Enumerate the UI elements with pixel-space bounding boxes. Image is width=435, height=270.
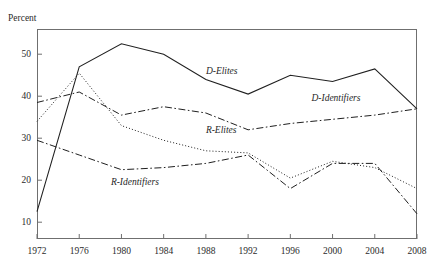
y-tick-label: 10	[9, 217, 31, 227]
x-tick-label: 1992	[228, 246, 268, 256]
x-tick-label: 2004	[355, 246, 395, 256]
series-annotation-r-elites: R-Elites	[206, 125, 237, 135]
cut-off-header-text	[8, 0, 42, 6]
y-tick-label: 30	[9, 133, 31, 143]
x-tick-label: 1984	[144, 246, 184, 256]
figure-root: Percent 1020304050 197219761980198419881…	[0, 0, 435, 270]
y-tick-label: 20	[9, 175, 31, 185]
x-tick-label: 1976	[59, 246, 99, 256]
series-line-r-identifiers	[37, 140, 417, 214]
series-annotation-d-identifiers: D-Identifiers	[311, 93, 360, 103]
x-tick-label: 1988	[186, 246, 226, 256]
y-tick-label: 50	[9, 49, 31, 59]
y-tick-label: 40	[9, 91, 31, 101]
x-tick-label: 1972	[17, 246, 57, 256]
series-annotation-d-elites: D-Elites	[206, 66, 238, 76]
x-tick-label: 1980	[101, 246, 141, 256]
x-tick-label: 1996	[270, 246, 310, 256]
y-axis-unit-label: Percent	[8, 13, 37, 23]
series-annotation-r-identifiers: R-Identifiers	[111, 177, 159, 187]
x-tick-label: 2000	[313, 246, 353, 256]
x-tick-label: 2008	[397, 246, 435, 256]
